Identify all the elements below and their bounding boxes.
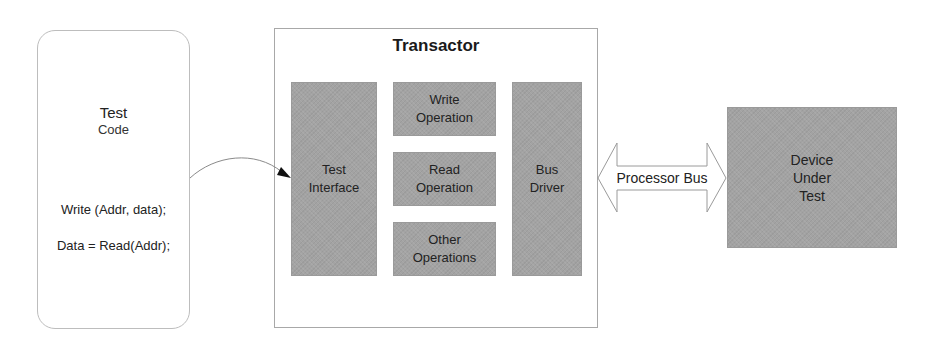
processor-bus-label: Processor Bus — [604, 169, 720, 187]
test-code-to-interface-connector — [190, 158, 282, 178]
connectors-layer — [0, 0, 930, 351]
connector-arrowhead-icon — [277, 167, 291, 178]
